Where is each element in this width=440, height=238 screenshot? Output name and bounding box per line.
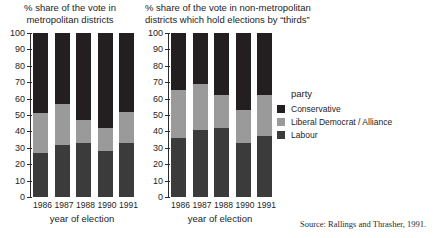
y-tick-label: 30 [15,143,25,153]
bar-segment [98,151,113,197]
bar-segment [55,104,70,145]
bar-segment [214,128,229,197]
bar-segment [236,110,251,143]
left-chart-panel: 1009080706050403020100 19861987198819901… [30,33,134,197]
legend-item-label: Liberal Democrat / Alliance [291,117,392,127]
y-tick-label: 80 [15,61,25,71]
bar-segment [55,33,70,104]
bar-segment [214,95,229,128]
legend-item-label: Labour [291,130,317,140]
right-x-tick-labels: 19861987198819901991 [171,200,272,210]
y-tick-mark [27,33,32,34]
y-tick-mark [165,33,170,34]
legend-item: Liberal Democrat / Alliance [277,117,392,127]
y-tick-mark [165,115,170,116]
y-tick-label: 90 [15,44,25,54]
right-x-axis-title: year of election [168,213,272,224]
bar-segment [193,84,208,130]
bar-1987 [55,33,70,197]
legend-title: party [291,88,392,99]
bar-segment [257,136,272,197]
y-tick-mark [165,131,170,132]
x-tick-label: 1990 [236,200,251,210]
x-tick-label: 1987 [193,200,208,210]
bar-segment [98,128,113,151]
y-tick-label: 90 [153,44,163,54]
y-tick-mark [27,164,32,165]
y-tick-label: 100 [148,28,163,38]
y-tick-mark [27,82,32,83]
y-tick-mark [165,66,170,67]
y-tick-label: 0 [158,192,163,202]
bar-1987 [193,33,208,197]
y-tick-label: 60 [153,94,163,104]
y-tick-mark [27,181,32,182]
bar-segment [33,33,48,113]
bar-1990 [236,33,251,197]
bar-segment [55,145,70,197]
bar-segment [214,33,229,95]
y-tick-mark [27,131,32,132]
y-tick-label: 20 [153,159,163,169]
bar-segment [98,33,113,128]
y-tick-mark [165,197,170,198]
bar-1986 [171,33,186,197]
left-plot-area: 1009080706050403020100 19861987198819901… [30,33,134,197]
x-tick-label: 1988 [76,200,91,210]
y-tick-mark [165,148,170,149]
y-tick-mark [165,99,170,100]
legend-entries: ConservativeLiberal Democrat / AllianceL… [277,104,392,140]
y-tick-mark [165,181,170,182]
y-tick-label: 70 [153,77,163,87]
y-tick-label: 20 [15,159,25,169]
bar-segment [33,113,48,152]
y-tick-label: 50 [153,110,163,120]
y-tick-mark [27,197,32,198]
left-bar-group [33,33,134,197]
bar-segment [171,138,186,197]
y-tick-label: 70 [15,77,25,87]
y-tick-label: 60 [15,94,25,104]
bar-segment [257,33,272,95]
legend-item-label: Conservative [291,104,341,114]
legend-swatch-icon [277,118,285,126]
legend-item: Conservative [277,104,392,114]
x-tick-label: 1991 [257,200,272,210]
y-tick-mark [165,49,170,50]
bar-segment [236,33,251,110]
bar-1991 [119,33,134,197]
left-panel-title: % share of the vote in metropolitan dist… [4,2,136,25]
bar-1991 [257,33,272,197]
bar-segment [171,33,186,90]
bar-segment [119,112,134,143]
x-tick-label: 1987 [55,200,70,210]
source-note: Source: Rallings and Thrasher, 1991. [300,219,426,229]
bar-segment [236,143,251,197]
y-tick-mark [27,148,32,149]
left-x-axis-title: year of election [30,213,134,224]
legend-item: Labour [277,130,392,140]
bar-segment [119,143,134,197]
bar-segment [76,33,91,120]
y-tick-label: 100 [10,28,25,38]
x-tick-label: 1986 [33,200,48,210]
bar-1988 [214,33,229,197]
x-tick-label: 1991 [119,200,134,210]
right-bar-group [171,33,272,197]
legend: party ConservativeLiberal Democrat / All… [277,88,392,143]
y-tick-label: 0 [20,192,25,202]
bar-1988 [76,33,91,197]
bar-segment [76,120,91,143]
y-tick-mark [27,99,32,100]
y-tick-label: 10 [153,176,163,186]
right-chart-panel: 1009080706050403020100 19861987198819901… [168,33,272,197]
y-tick-mark [27,49,32,50]
left-x-tick-labels: 19861987198819901991 [33,200,134,210]
bar-segment [193,130,208,197]
y-tick-mark [165,164,170,165]
stacked-bar-chart-figure: % share of the vote in metropolitan dist… [0,0,440,238]
y-tick-label: 40 [15,126,25,136]
y-tick-mark [27,66,32,67]
x-tick-label: 1988 [214,200,229,210]
y-tick-mark [27,115,32,116]
